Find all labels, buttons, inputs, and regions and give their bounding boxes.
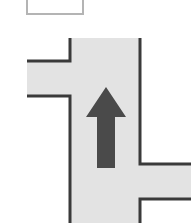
- left-branch-surface: [27, 61, 71, 96]
- right-kerb-lower: [140, 199, 191, 223]
- road-intersection-graphic: [0, 0, 191, 223]
- right-branch-surface: [140, 164, 191, 199]
- left-kerb-upper: [27, 38, 70, 61]
- right-kerb-upper: [140, 38, 191, 164]
- left-kerb-lower: [27, 96, 70, 223]
- diagram-canvas: [0, 0, 191, 223]
